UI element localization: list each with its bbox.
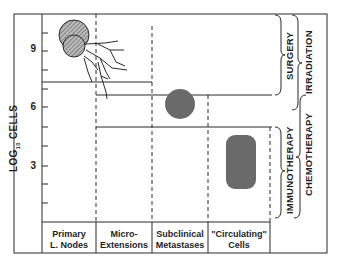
column-label-subclinical-line2: Metastases	[152, 240, 208, 251]
column-label-circulating-line1: "Circulating"	[208, 229, 270, 240]
y-tick-6: 6	[22, 101, 36, 112]
column-label-subclinical-line1: Subclinical	[152, 229, 208, 240]
outer-frame	[14, 14, 327, 253]
label-immunotherapy: IMMUNOTHERAPY	[284, 126, 295, 214]
label-irradiation: IRRADIATION	[303, 30, 314, 94]
column-label-primary: Primary L. Nodes	[42, 229, 96, 251]
micro-extension-branches	[84, 41, 127, 99]
column-label-micro: Micro- Extensions	[96, 229, 152, 251]
y-axis-title-subscript: 10	[15, 142, 21, 149]
y-tick-9: 9	[22, 43, 36, 54]
y-tick-3: 3	[22, 160, 36, 171]
column-label-primary-line1: Primary	[42, 229, 96, 240]
column-label-micro-line2: Extensions	[96, 240, 152, 251]
y-axis-title-log: LOG	[8, 149, 19, 172]
label-chemotherapy: CHEMOTHERAPY	[303, 113, 314, 196]
circulating-cells-block	[226, 135, 256, 189]
subclinical-metastasis-circle	[165, 89, 195, 119]
column-label-subclinical: Subclinical Metastases	[152, 229, 208, 251]
y-axis-title-cells: CELLS	[8, 105, 19, 142]
y-axis-ticks	[42, 33, 48, 203]
column-label-circulating: "Circulating" Cells	[208, 229, 270, 251]
y-axis-title: LOG10 CELLS	[8, 62, 21, 172]
lymph-node-circle	[63, 35, 85, 57]
column-label-primary-line2: L. Nodes	[42, 240, 96, 251]
column-label-circulating-line2: Cells	[208, 240, 270, 251]
label-surgery: SURGERY	[284, 32, 295, 80]
column-label-micro-line1: Micro-	[96, 229, 152, 240]
